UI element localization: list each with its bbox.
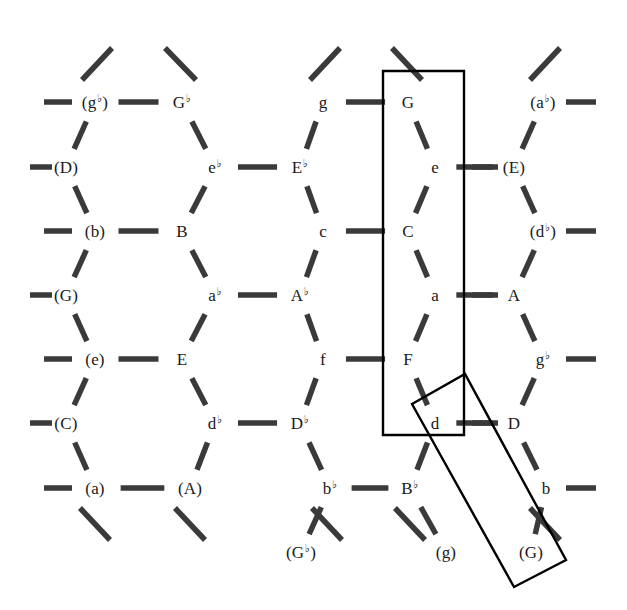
node-label-n-5-1: d♭	[208, 415, 223, 432]
node-label-n-3-2: A♭	[291, 287, 309, 304]
lattice-edge	[306, 378, 316, 405]
node-label-n-1-1: e♭	[208, 159, 222, 176]
selection-box-group	[383, 71, 566, 587]
tonnetz-figure: (g♭)G♭gG(a♭)(D)e♭E♭e(E)(b)BcC(d♭)(G)a♭A♭…	[0, 0, 627, 610]
node-label-n-0-3: G	[402, 94, 414, 111]
node-label-n-6-3: B♭	[401, 480, 418, 497]
lattice-edge	[307, 186, 317, 213]
lattice-edge	[523, 314, 535, 341]
lattice-edges-and-boxes	[0, 0, 627, 610]
node-label-n-7-4: (G)	[519, 544, 543, 561]
lattice-edge	[522, 250, 534, 277]
node-label-n-1-0: (D)	[54, 159, 78, 176]
node-label-n-2-0: (b)	[85, 223, 105, 240]
node-label-n-5-2: D♭	[291, 415, 309, 432]
node-label-n-1-4: (E)	[503, 159, 525, 176]
node-label-n-4-2: f	[320, 351, 326, 368]
node-label-n-2-4: (d♭)	[530, 223, 556, 240]
node-label-n-5-0: (C)	[54, 415, 77, 432]
lattice-edge	[522, 378, 534, 405]
lattice-edge	[416, 314, 427, 341]
lattice-edge	[75, 314, 87, 341]
node-label-n-5-3: d	[431, 415, 440, 432]
lattice-edge	[307, 314, 317, 341]
node-label-n-1-2: E♭	[292, 159, 308, 176]
lattice-edge	[309, 443, 322, 470]
lattice-edge	[530, 48, 560, 80]
lattice-edge	[310, 48, 340, 80]
lattice-edge	[192, 122, 206, 149]
node-label-n-7-3: (g)	[436, 544, 456, 561]
node-label-n-6-4: b	[542, 480, 551, 497]
lattice-edge	[74, 250, 86, 277]
node-label-n-3-3: a	[431, 287, 439, 304]
lattice-edge	[192, 378, 206, 405]
lattice-edge	[416, 122, 427, 149]
node-label-n-4-0: (e)	[85, 351, 104, 368]
node-label-n-3-0: (G)	[54, 287, 78, 304]
lattice-edge	[417, 443, 428, 470]
lattice-edge	[395, 508, 425, 540]
lattice-edge	[524, 443, 537, 470]
node-label-n-1-3: e	[431, 159, 439, 176]
lattice-edge	[392, 48, 422, 80]
lattice-edge	[416, 186, 427, 213]
lattice-edge	[75, 443, 87, 470]
node-label-n-2-1: B	[176, 223, 188, 240]
lattice-edge	[191, 186, 205, 213]
lattice-edge	[175, 508, 205, 540]
node-label-n-0-0: (g♭)	[82, 94, 108, 111]
lattice-edge	[80, 508, 110, 540]
lattice-edge	[523, 186, 535, 213]
lattice-edge	[421, 507, 436, 534]
lattice-edge	[197, 443, 208, 470]
node-label-n-0-2: g	[319, 94, 328, 111]
node-label-n-7-2: (G♭)	[286, 544, 316, 561]
lattice-edge	[82, 48, 112, 80]
node-label-n-3-4: A	[508, 287, 520, 304]
lattice-edge	[165, 48, 196, 80]
node-label-n-2-3: C	[402, 223, 414, 240]
node-label-n-0-1: G♭	[173, 94, 191, 111]
node-label-n-3-1: a♭	[208, 287, 222, 304]
lattice-edge	[522, 122, 534, 149]
node-label-n-2-2: c	[319, 223, 327, 240]
lattice-edge	[74, 378, 86, 405]
node-label-n-6-1: (A)	[178, 480, 202, 497]
node-label-n-5-4: D	[508, 415, 520, 432]
lattice-edge	[191, 314, 205, 341]
node-label-n-4-3: F	[403, 351, 413, 368]
lattice-edge	[306, 250, 316, 277]
node-label-n-6-2: b♭	[323, 480, 338, 497]
lattice-edge	[306, 122, 316, 149]
lattice-edge	[530, 508, 560, 540]
node-label-n-4-1: E	[177, 351, 188, 368]
lattice-edge	[75, 186, 87, 213]
node-label-n-4-4: g♭	[536, 351, 551, 368]
node-label-n-6-0: (a)	[85, 480, 104, 497]
node-label-n-0-4: (a♭)	[530, 94, 555, 111]
lattice-edge	[192, 250, 206, 277]
lattice-edge	[416, 250, 427, 277]
lattice-edge	[74, 122, 86, 149]
